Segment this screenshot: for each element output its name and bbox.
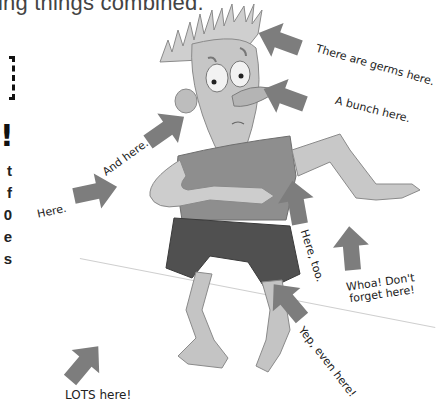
arrow-hand-chest-icon [275, 178, 318, 228]
arrow-elbow-icon [70, 169, 121, 213]
arrow-right-hand-icon [331, 225, 371, 272]
label-foot: LOTS here! [65, 388, 131, 402]
arrow-foot-icon [56, 335, 112, 392]
arrow-head-icon [252, 16, 306, 65]
arrow-nose-icon [257, 72, 311, 121]
arrow-knee-icon [260, 273, 316, 330]
